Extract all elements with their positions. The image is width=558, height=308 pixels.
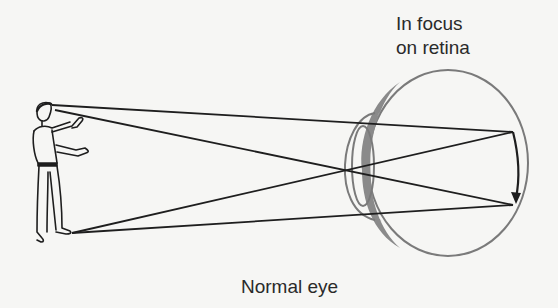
person-figure	[33, 102, 88, 242]
in-focus-label-line1: In focus	[396, 12, 470, 36]
in-focus-label: In focus on retina	[396, 12, 470, 60]
light-rays	[52, 105, 513, 233]
eyeball-outline	[368, 70, 528, 256]
figure-caption: Normal eye	[241, 275, 338, 299]
in-focus-label-line2: on retina	[396, 36, 470, 60]
normal-eye-diagram	[0, 0, 558, 308]
ray-head-to-retina-bottom	[55, 110, 513, 205]
ray-feet-to-retina-top	[72, 132, 513, 233]
ray-head-to-retina-top	[52, 105, 513, 132]
eye-cross-section	[345, 70, 528, 256]
inverted-image-arrow	[511, 132, 521, 204]
ray-feet-to-retina-bottom	[72, 205, 513, 233]
